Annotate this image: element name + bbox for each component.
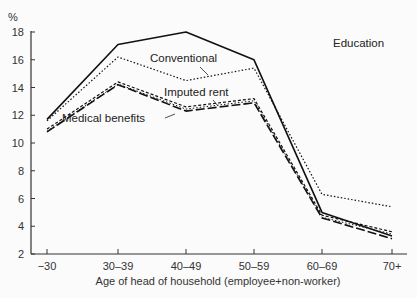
x-tick-label: 70+ <box>383 260 402 272</box>
x-tick-label: 30–39 <box>103 260 134 272</box>
y-tick-label: 2 <box>18 248 24 260</box>
series-education-label: Education <box>333 37 384 49</box>
y-tick-label: 4 <box>18 220 24 232</box>
y-tick-label: 14 <box>12 82 24 94</box>
y-tick-label: 18 <box>12 26 24 38</box>
series-conventional-label: Conventional <box>150 52 217 64</box>
x-tick-label: 50–59 <box>239 260 270 272</box>
series-imputed-rent-label: Imputed rent <box>164 86 229 98</box>
y-tick-label: 10 <box>12 137 24 149</box>
y-axis-unit: % <box>8 11 18 23</box>
series-conventional-line <box>47 57 392 207</box>
series-imputed-rent-line <box>47 82 392 232</box>
y-tick-label: 8 <box>18 165 24 177</box>
series-medical-benefits-line <box>47 85 392 239</box>
series-medical-benefits-leader <box>165 114 175 118</box>
y-tick-label: 6 <box>18 193 24 205</box>
series-education-line <box>47 32 392 236</box>
x-axis-title: Age of head of household (employee+non-w… <box>96 275 341 287</box>
x-tick-label: 60–69 <box>307 260 338 272</box>
line-chart: %24681012141618−3030–3940–4950–5960–6970… <box>0 0 417 298</box>
series-conventional-leader <box>200 67 208 75</box>
series-medical-benefits-label: Medical benefits <box>62 112 145 124</box>
x-tick-label: −30 <box>38 260 57 272</box>
y-tick-label: 16 <box>12 54 24 66</box>
x-tick-label: 40–49 <box>171 260 202 272</box>
y-tick-label: 12 <box>12 109 24 121</box>
